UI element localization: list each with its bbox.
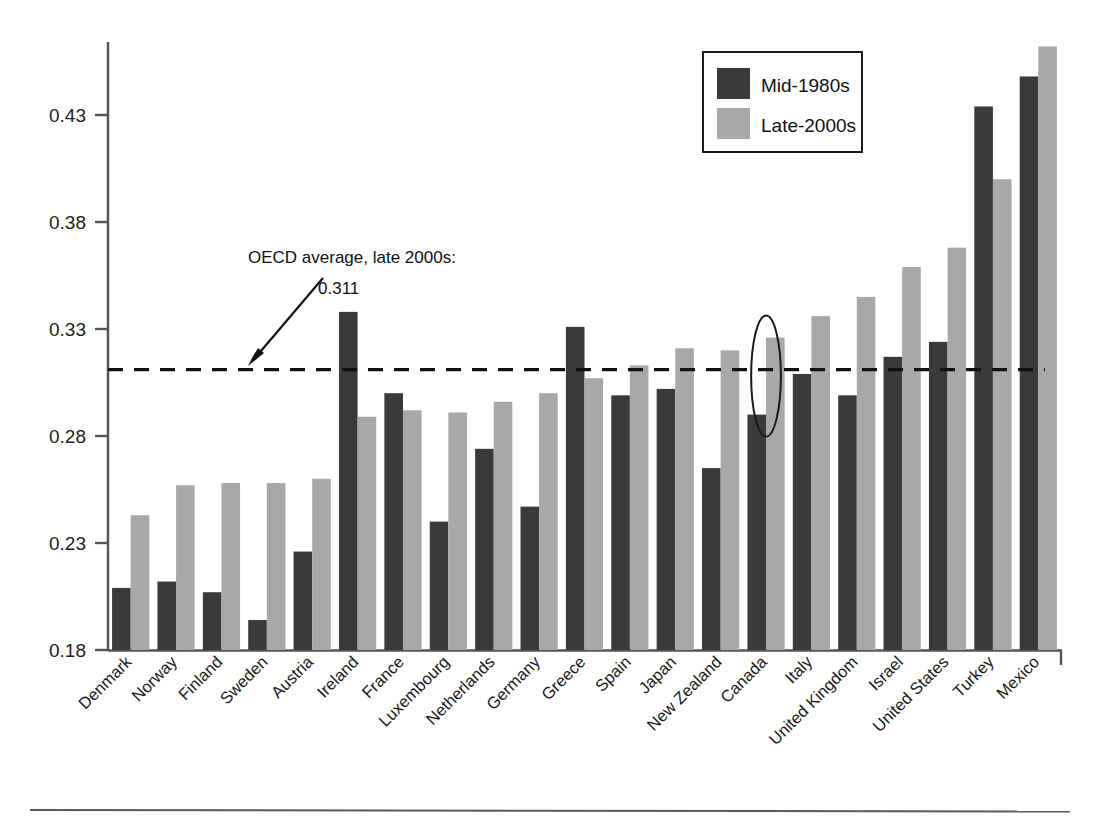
- bar: [358, 417, 377, 650]
- legend-label-mid-1980s: Mid-1980s: [761, 75, 850, 96]
- bar: [1038, 47, 1057, 650]
- bar: [248, 620, 267, 650]
- bar: [312, 479, 331, 650]
- bar: [721, 350, 740, 650]
- bar: [430, 522, 449, 650]
- bar: [929, 342, 948, 650]
- bar: [702, 468, 721, 650]
- legend-swatch-mid-1980s: [717, 68, 750, 99]
- y-axis-tick-label: 0.23: [49, 533, 86, 554]
- bar: [539, 393, 558, 650]
- legend-swatch-late-2000s: [717, 108, 750, 139]
- bar: [611, 395, 630, 650]
- oecd-average-annotation-line2: 0.311: [318, 279, 359, 298]
- y-axis-tick-label: 0.18: [49, 640, 86, 661]
- bar: [993, 179, 1012, 650]
- bar: [857, 297, 876, 650]
- bar: [838, 395, 857, 650]
- bar: [884, 357, 903, 650]
- bar: [657, 389, 676, 650]
- bar: [176, 485, 195, 650]
- bar: [221, 483, 240, 650]
- bar: [675, 348, 694, 650]
- bar: [384, 393, 403, 650]
- y-axis-tick-label: 0.38: [49, 212, 86, 233]
- bar: [403, 410, 422, 650]
- bar: [793, 374, 812, 650]
- bar: [1020, 76, 1039, 650]
- bar: [203, 592, 222, 650]
- y-axis-tick-label: 0.43: [49, 105, 86, 126]
- y-axis-tick-label: 0.33: [49, 319, 86, 340]
- chart-legend: Mid-1980s Late-2000s: [703, 52, 862, 152]
- bar: [902, 267, 921, 650]
- bar: [585, 378, 604, 650]
- bar: [448, 412, 467, 650]
- bar: [294, 552, 313, 650]
- chart-canvas: 0.180.230.280.330.380.43 OECD average, l…: [0, 0, 1095, 832]
- y-axis-tick-label: 0.28: [49, 426, 86, 447]
- bar: [131, 515, 150, 650]
- bar: [974, 106, 993, 650]
- bar: [948, 248, 967, 650]
- legend-label-late-2000s: Late-2000s: [761, 115, 856, 136]
- gini-coefficient-bar-chart: 0.180.230.280.330.380.43 OECD average, l…: [0, 0, 1095, 832]
- bar: [521, 507, 540, 650]
- bar: [630, 365, 649, 650]
- bar: [747, 415, 766, 650]
- bar: [267, 483, 286, 650]
- bar: [475, 449, 494, 650]
- bar: [157, 582, 176, 650]
- bar: [339, 312, 358, 650]
- bar: [811, 316, 830, 650]
- oecd-average-annotation-line1: OECD average, late 2000s:: [248, 248, 456, 267]
- bar: [112, 588, 131, 650]
- bar: [766, 338, 785, 650]
- bar: [566, 327, 585, 650]
- bar: [494, 402, 513, 650]
